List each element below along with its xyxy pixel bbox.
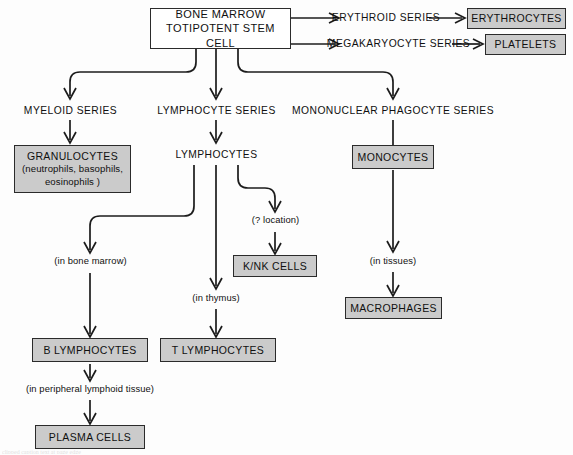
monocytes-label: MONOCYTES (358, 151, 429, 163)
cropped-page-caption: clipped caption text at page edge (2, 449, 562, 454)
edge-lymphocytes-to-qlocation (238, 165, 281, 212)
node-megakaryocyte-series: MEGAKARYOCYTE SERIES (341, 37, 456, 52)
myeloid-series-label: MYELOID SERIES (24, 105, 117, 117)
flowchart-canvas: .ln { stroke:#1c1c1c; stroke-width:1.7; … (0, 0, 573, 455)
in-tissues-label: (in tissues) (370, 255, 417, 266)
lymphocytes-label: LYMPHOCYTES (175, 149, 257, 161)
node-granulocytes[interactable]: GRANULOCYTES (neutrophils, basophils, eo… (14, 145, 131, 193)
edge-blymphocytes-to-peripheral (84, 364, 96, 381)
node-monocytes[interactable]: MONOCYTES (352, 145, 434, 169)
node-lymphocyte-series: LYMPHOCYTE SERIES (157, 104, 276, 119)
stem-cell-label-line2: TOTIPOTENT STEM CELL (151, 21, 290, 50)
edge-stemcell-to-lymphocyte-series (210, 49, 222, 99)
node-platelets[interactable]: PLATELETS (485, 34, 566, 55)
edge-monocytes-to-intissues (387, 170, 399, 252)
in-thymus-label: (in thymus) (192, 292, 239, 303)
k-nk-cells-label: K/NK CELLS (243, 260, 307, 272)
edge-lymphocytes-to-thymus (210, 165, 222, 289)
node-plasma-cells[interactable]: PLASMA CELLS (35, 425, 145, 449)
annotation-in-peripheral-lymphoid-tissue: (in peripheral lymphoid tissue) (10, 382, 170, 396)
node-macrophages[interactable]: MACROPHAGES (345, 297, 442, 319)
t-lymphocytes-label: T LYMPHOCYTES (172, 344, 264, 356)
question-location-label: (? location) (252, 214, 300, 225)
edge-stemcell-to-myeloid (64, 49, 196, 99)
edge-peripheral-to-plasmacells (84, 400, 96, 424)
annotation-in-tissues: (in tissues) (356, 254, 430, 268)
stem-cell-label-line1: BONE MARROW (176, 7, 266, 21)
platelets-label: PLATELETS (495, 38, 557, 50)
mononuclear-phagocyte-series-label: MONONUCLEAR PHAGOCYTE SERIES (292, 105, 494, 117)
granulocytes-sublabel-line1: (neutrophils, basophils, (22, 163, 123, 175)
in-peripheral-lymphoid-tissue-label: (in peripheral lymphoid tissue) (26, 383, 154, 394)
annotation-question-location: (? location) (238, 213, 313, 227)
edge-myeloid-to-granulocytes (64, 120, 76, 143)
node-mononuclear-phagocyte-series: MONONUCLEAR PHAGOCYTE SERIES (296, 104, 490, 119)
node-erythrocytes[interactable]: ERYTHROCYTES (467, 8, 566, 29)
annotation-in-bone-marrow: (in bone marrow) (40, 254, 141, 268)
erythroid-series-label: ERYTHROID SERIES (332, 12, 440, 24)
node-erythroid-series: ERYTHROID SERIES (341, 11, 431, 26)
edge-lymphocyteseries-to-lymphocytes (210, 120, 222, 143)
edge-bonemarrow-to-blymphocytes (84, 273, 96, 337)
node-t-lymphocytes[interactable]: T LYMPHOCYTES (160, 338, 276, 362)
edge-stemcell-to-mononuclear (238, 49, 399, 99)
edge-intissues-to-macrophages (387, 272, 399, 296)
macrophages-label: MACROPHAGES (350, 302, 437, 314)
node-bone-marrow-totipotent-stem-cell[interactable]: BONE MARROW TOTIPOTENT STEM CELL (150, 8, 291, 49)
megakaryocyte-series-label: MEGAKARYOCYTE SERIES (327, 38, 470, 50)
edge-thymus-to-tlymphocytes (210, 309, 222, 337)
plasma-cells-label: PLASMA CELLS (49, 431, 131, 443)
edge-qlocation-to-knk (269, 232, 281, 254)
node-b-lymphocytes[interactable]: B LYMPHOCYTES (32, 338, 148, 362)
erythrocytes-label: ERYTHROCYTES (471, 12, 561, 24)
node-lymphocytes: LYMPHOCYTES (170, 148, 263, 163)
node-myeloid-series: MYELOID SERIES (14, 104, 127, 119)
in-bone-marrow-label: (in bone marrow) (54, 255, 126, 266)
granulocytes-label: GRANULOCYTES (27, 150, 118, 164)
node-k-nk-cells[interactable]: K/NK CELLS (233, 255, 317, 277)
granulocytes-sublabel-line2: eosinophils ) (45, 176, 100, 188)
b-lymphocytes-label: B LYMPHOCYTES (43, 344, 136, 356)
annotation-in-thymus: (in thymus) (181, 291, 251, 305)
lymphocyte-series-label: LYMPHOCYTE SERIES (157, 105, 275, 117)
